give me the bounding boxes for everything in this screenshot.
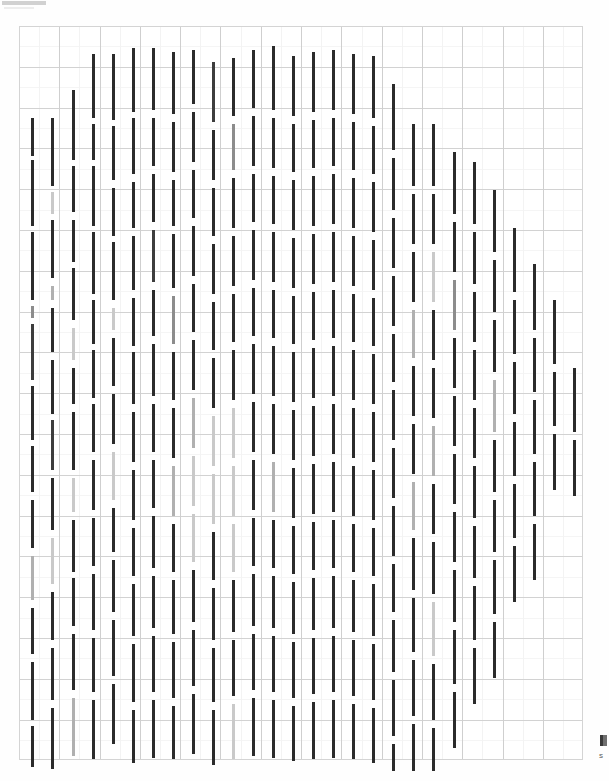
bar-segment — [392, 620, 395, 672]
bar-segment — [31, 556, 34, 600]
bar-segment — [92, 300, 95, 344]
bar-segment — [332, 174, 335, 224]
bar-segment — [412, 482, 415, 530]
bar-segment — [352, 54, 355, 114]
bar-segment — [132, 412, 135, 462]
bar-segment — [92, 166, 95, 226]
legend[interactable]: s — [598, 735, 609, 771]
bar-segment — [513, 484, 516, 538]
bar-segment — [72, 220, 75, 262]
bar-segment — [252, 288, 255, 336]
bar-segment — [112, 508, 115, 552]
bar-segment — [92, 574, 95, 630]
bar-segment — [453, 222, 456, 272]
bar-segment — [252, 460, 255, 510]
below-axis-bar-overflow — [19, 757, 583, 771]
bar-segment — [292, 296, 295, 344]
bar-segment — [392, 158, 395, 210]
bar-segment — [252, 634, 255, 690]
bar-segment — [132, 352, 135, 404]
bar-segment — [412, 310, 415, 358]
bar-segment — [232, 124, 235, 170]
bar-segment — [172, 408, 175, 458]
bar-segment — [312, 638, 315, 694]
bar-segment — [152, 700, 155, 758]
bar-segment — [312, 292, 315, 340]
bar-segment — [372, 412, 375, 462]
bar-segment — [453, 280, 456, 330]
bar-segment — [112, 242, 115, 300]
bar-segment — [51, 192, 54, 214]
bar-segment — [252, 230, 255, 280]
bar-segment-overflow — [352, 757, 355, 759]
bar-segment — [252, 344, 255, 394]
bar-segment — [72, 268, 75, 320]
bar-segment — [372, 354, 375, 404]
bar-segment — [372, 240, 375, 290]
bar-segment — [92, 518, 95, 566]
bar-segment — [252, 174, 255, 222]
bar-segment — [453, 454, 456, 504]
bar-segment — [312, 578, 315, 630]
bar-segment — [232, 236, 235, 286]
bar-segment — [392, 390, 395, 440]
bar-segment — [493, 622, 496, 678]
bar-segment — [212, 588, 215, 640]
bar-segment — [493, 440, 496, 492]
bar-segment — [332, 50, 335, 110]
bar-segment — [192, 226, 195, 276]
bar-segment — [132, 644, 135, 702]
bar-segment — [152, 576, 155, 628]
bar-segment — [232, 350, 235, 400]
bar-segment — [212, 302, 215, 350]
bar-segment — [172, 580, 175, 634]
bar-segment — [212, 358, 215, 408]
bar-segment — [72, 578, 75, 626]
plot-area[interactable] — [19, 26, 583, 760]
bar-segment — [252, 50, 255, 108]
bar-segment — [172, 234, 175, 288]
bar-segment — [473, 526, 476, 578]
legend-label: s — [599, 751, 603, 760]
bar-segment — [252, 402, 255, 452]
bar-segment — [453, 512, 456, 562]
bar-segment — [513, 228, 516, 292]
bar-segment — [513, 546, 516, 602]
bar-segment — [132, 470, 135, 520]
bar-segment — [392, 84, 395, 150]
bar-segment — [312, 406, 315, 456]
bar-segment — [132, 48, 135, 112]
bar-segment — [72, 634, 75, 690]
bar-segment — [292, 642, 295, 698]
bar-segment — [192, 284, 195, 332]
bar-segment — [473, 350, 476, 400]
bar-segment — [453, 630, 456, 684]
bar-segment — [172, 706, 175, 760]
bar-segment — [152, 636, 155, 692]
bar-segment — [332, 576, 335, 628]
bar-segment-overflow — [172, 757, 175, 759]
bar-segment — [392, 680, 395, 736]
bar-segment — [92, 124, 95, 160]
bar-segment — [272, 462, 275, 512]
bar-segment — [473, 162, 476, 224]
bar-segment — [412, 660, 415, 716]
bar-segment — [533, 524, 536, 580]
bar-segment — [352, 350, 355, 400]
bar-segment — [192, 456, 195, 506]
bar-segment — [232, 466, 235, 516]
bar-segment — [31, 726, 34, 760]
bar-segment — [72, 412, 75, 470]
bar-segment — [272, 346, 275, 396]
bar-segment — [51, 420, 54, 470]
bar-segment — [232, 524, 235, 572]
bar-segment — [493, 560, 496, 614]
bar-segment — [152, 48, 155, 110]
bar-segment — [493, 190, 496, 252]
bar-segment — [513, 300, 516, 354]
bar-segment — [252, 574, 255, 626]
bar-segment — [352, 236, 355, 286]
bar-segment — [72, 90, 75, 160]
bar-segment — [232, 178, 235, 228]
bar-segment — [92, 232, 95, 294]
